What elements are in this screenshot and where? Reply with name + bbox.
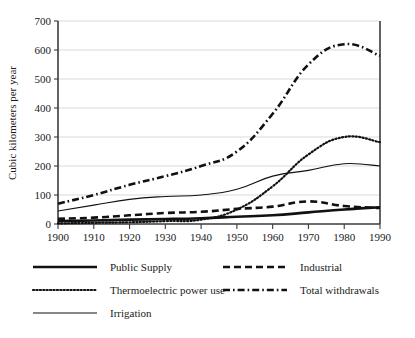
y-tick-label-600: 600 bbox=[35, 44, 52, 56]
legend-label-irrigation: Irrigation bbox=[110, 307, 152, 319]
plot-area-background bbox=[58, 21, 380, 224]
legend-item-total-withdrawals[interactable]: Total withdrawals bbox=[223, 284, 379, 296]
y-tick-label-500: 500 bbox=[35, 73, 52, 85]
legend-label-industrial: Industrial bbox=[300, 261, 342, 273]
y-axis-title: Cubic kilometers per year bbox=[6, 66, 18, 180]
x-tick-label-1900: 1900 bbox=[47, 231, 70, 243]
x-axis-ticks: 1900191019201930194019501960197019801990 bbox=[47, 224, 392, 243]
x-tick-label-1950: 1950 bbox=[226, 231, 249, 243]
y-tick-label-700: 700 bbox=[35, 15, 52, 27]
x-tick-label-1980: 1980 bbox=[333, 231, 356, 243]
legend-label-thermoelectric-power-use: Thermoelectric power use bbox=[110, 284, 225, 296]
x-tick-label-1960: 1960 bbox=[262, 231, 285, 243]
x-tick-label-1990: 1990 bbox=[369, 231, 392, 243]
y-tick-label-200: 200 bbox=[35, 160, 52, 172]
x-tick-label-1930: 1930 bbox=[154, 231, 177, 243]
legend-item-thermoelectric-power-use[interactable]: Thermoelectric power use bbox=[33, 284, 225, 296]
x-tick-label-1970: 1970 bbox=[297, 231, 320, 243]
x-tick-label-1910: 1910 bbox=[83, 231, 106, 243]
y-tick-label-300: 300 bbox=[35, 131, 52, 143]
y-axis-ticks: 0100200300400500600700 bbox=[35, 15, 59, 230]
y-tick-label-400: 400 bbox=[35, 102, 52, 114]
chart-svg: 0100200300400500600700 19001910192019301… bbox=[0, 0, 415, 338]
legend-item-irrigation[interactable]: Irrigation bbox=[33, 307, 152, 319]
y-tick-label-0: 0 bbox=[46, 218, 52, 230]
x-tick-label-1920: 1920 bbox=[119, 231, 142, 243]
chart-legend: Public SupplyIndustrialThermoelectric po… bbox=[33, 261, 379, 319]
legend-label-public-supply: Public Supply bbox=[110, 261, 173, 273]
legend-label-total-withdrawals: Total withdrawals bbox=[300, 284, 379, 296]
legend-item-public-supply[interactable]: Public Supply bbox=[33, 261, 173, 273]
water-withdrawals-chart: 0100200300400500600700 19001910192019301… bbox=[0, 0, 415, 338]
legend-item-industrial[interactable]: Industrial bbox=[223, 261, 342, 273]
y-tick-label-100: 100 bbox=[35, 189, 52, 201]
x-tick-label-1940: 1940 bbox=[190, 231, 213, 243]
